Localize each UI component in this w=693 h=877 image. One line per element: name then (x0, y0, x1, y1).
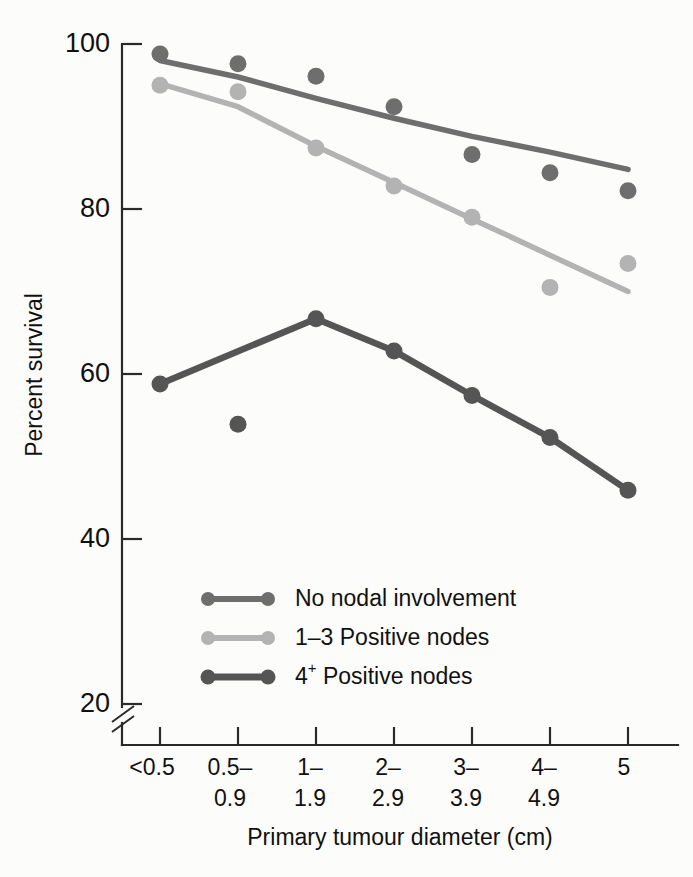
x-tick-label-5-line2: 4.9 (528, 785, 560, 811)
data-point (230, 83, 247, 100)
legend-swatch-dot-right-1 (261, 631, 275, 645)
legend-label-2: 4+ Positive nodes (295, 659, 473, 689)
data-point (620, 255, 637, 272)
data-point (230, 55, 247, 72)
plot-layer (152, 45, 637, 498)
legend-label-2-superscript: + (308, 659, 317, 676)
legend-item-4plus-nodes[interactable]: 4+ Positive nodes (201, 659, 473, 689)
x-tick-label-1-line2: 0.9 (214, 785, 246, 811)
data-point (308, 68, 325, 85)
x-ticks-group: <0.5 0.5– 0.9 1– 1.9 2– 2.9 3– 3.9 4– 4.… (129, 727, 630, 811)
data-point (152, 375, 169, 392)
x-tick-label-0-line1: <0.5 (129, 754, 174, 780)
y-tick-label-100: 100 (65, 28, 110, 58)
x-tick-label-2-line2: 1.9 (294, 785, 326, 811)
legend-label-2-rest: Positive nodes (317, 663, 473, 689)
data-point (308, 310, 325, 327)
data-point (230, 416, 247, 433)
legend-item-1-3-nodes[interactable]: 1–3 Positive nodes (201, 624, 489, 650)
data-point (542, 279, 559, 296)
data-point (464, 209, 481, 226)
y-tick-label-20: 20 (80, 688, 110, 718)
legend-label-2-base: 4 (295, 663, 308, 689)
data-point (386, 98, 403, 115)
x-tick-label-4-line2: 3.9 (450, 785, 482, 811)
x-tick-label-1-line1: 0.5– (208, 754, 253, 780)
series-group-2 (152, 310, 637, 499)
y-axis-title: Percent survival (21, 293, 47, 457)
x-tick-label-6-line1: 5 (618, 754, 631, 780)
survival-line-chart: 100 80 60 40 20 <0.5 0.5– 0.9 1– 1.9 2– … (0, 0, 693, 877)
y-tick-label-60: 60 (80, 358, 110, 388)
data-point (152, 77, 169, 94)
legend-swatch-dot-right-0 (261, 592, 275, 606)
data-point (152, 45, 169, 62)
series-group-0 (152, 45, 637, 199)
x-tick-label-3-line2: 2.9 (372, 785, 404, 811)
legend-swatch-dot-right-2 (261, 670, 276, 685)
data-point (386, 177, 403, 194)
x-tick-label-3-line1: 2– (375, 754, 401, 780)
figure-panel: 100 80 60 40 20 <0.5 0.5– 0.9 1– 1.9 2– … (0, 0, 693, 877)
data-point (542, 164, 559, 181)
legend-swatch-dot-left-2 (201, 670, 216, 685)
y-tick-label-80: 80 (80, 193, 110, 223)
legend-label-0: No nodal involvement (295, 585, 517, 611)
legend-swatch-dot-left-0 (201, 592, 215, 606)
y-ticks-group: 100 80 60 40 20 (65, 28, 142, 718)
data-point (308, 139, 325, 156)
data-point (542, 429, 559, 446)
x-axis-title: Primary tumour diameter (cm) (247, 824, 552, 850)
legend-label-1: 1–3 Positive nodes (295, 624, 489, 650)
x-tick-label-4-line1: 3– (453, 754, 479, 780)
legend-item-no-nodal[interactable]: No nodal involvement (201, 585, 517, 611)
data-point (620, 482, 637, 499)
legend: No nodal involvement 1–3 Positive nodes … (201, 585, 517, 689)
data-point (620, 182, 637, 199)
x-tick-label-2-line1: 1– (297, 754, 323, 780)
legend-swatch-dot-left-1 (201, 631, 215, 645)
data-point (464, 387, 481, 404)
x-tick-label-5-line1: 4– (531, 754, 557, 780)
data-point (386, 342, 403, 359)
data-point (464, 146, 481, 163)
y-tick-label-40: 40 (80, 523, 110, 553)
